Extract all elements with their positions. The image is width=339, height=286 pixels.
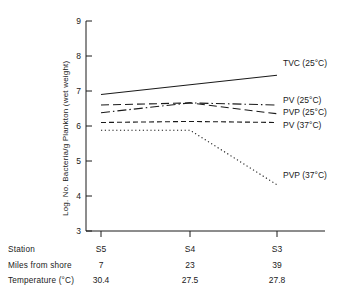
y-tick-label-6: 6 [76,121,81,131]
series-label-pvp-37c: PVP (37°C) [283,170,327,180]
y-tick-label-4: 4 [76,191,81,201]
chart-figure: 9 8 7 6 5 4 3 Log. No. Bacteria/g Plankt… [0,0,339,286]
y-axis-title: Log. No. Bacteria/g Plankton (wet weight… [61,60,70,216]
y-tick-label-8: 8 [76,51,81,61]
table-cell-temperature-s3: 27.8 [269,275,286,285]
series-label-pv-37c: PV (37°C) [283,120,322,130]
series-label-pv-25c: PV (25°C) [283,95,322,105]
table-cell-station-s4: S4 [185,244,196,254]
table-cell-station-s5: S5 [96,244,107,254]
table-row-header-temperature: Temperature (°C) [8,276,74,285]
table-cell-temperature-s5: 30.4 [93,275,110,285]
table-row-header-station: Station [8,245,35,254]
series-label-pvp-25c: PVP (25°C) [283,107,327,117]
table-cell-temperature-s4: 27.5 [182,275,199,285]
series-line-tvc-25c [101,75,277,94]
table-cell-station-s3: S3 [272,244,283,254]
table-row-header-miles: Miles from shore [8,261,72,270]
y-tick-label-9: 9 [76,16,81,26]
y-tick-label-7: 7 [76,86,81,96]
series-label-tvc-25c: TVC (25°C) [283,58,327,68]
table-cell-miles-s4: 23 [185,260,195,270]
y-tick-label-5: 5 [76,156,81,166]
series-line-pv-37c [101,121,277,122]
series-line-pvp-37c [101,130,277,185]
table-cell-miles-s5: 7 [99,260,104,270]
table-cell-miles-s3: 39 [272,260,282,270]
y-tick-label-3: 3 [76,226,81,236]
line-chart-svg: 9 8 7 6 5 4 3 Log. No. Bacteria/g Plankt… [0,0,339,286]
